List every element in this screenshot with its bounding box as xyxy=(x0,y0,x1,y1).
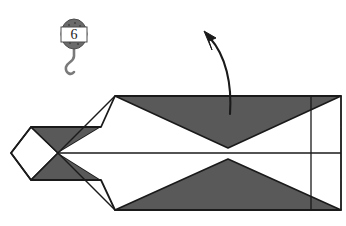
fold-arrow-head xyxy=(204,31,216,50)
diagram-canvas: 6 xyxy=(0,0,346,226)
hook-icon xyxy=(66,48,74,74)
step-marker-group: 6 xyxy=(61,19,87,74)
pulley-speckle xyxy=(77,43,79,45)
pulley-speckle xyxy=(68,24,70,26)
step-number-label: 6 xyxy=(71,27,78,42)
model-group xyxy=(11,96,341,210)
origami-diagram: 6 xyxy=(0,0,346,226)
pulley-speckle xyxy=(74,22,76,24)
